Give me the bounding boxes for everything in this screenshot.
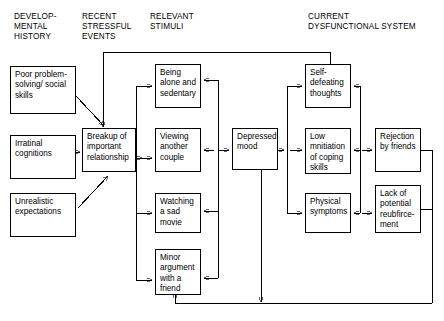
column-heading-relevant-stimuli: RELEVANT STIMULI: [150, 12, 230, 32]
edge-top-feedback-bus: [103, 52, 330, 122]
edge-poor-problem-solving-to-breakup: [76, 96, 104, 126]
column-heading-developmental-history: DEVELOP- MENTAL HISTORY: [14, 12, 80, 43]
node-low-initiation-of-coping-skills: Low mnitiation of coping skills: [305, 128, 351, 174]
node-physical-symptoms: Physical symptoms: [305, 193, 351, 233]
node-watching-a-sad-movie: Watching a sad movie: [155, 193, 201, 233]
node-depressed-mood: Depressed mood: [232, 128, 278, 170]
node-self-defeating-thoughts: Self- defeating thoughts: [305, 64, 351, 108]
node-breakup-of-important-relationship: Breakup of important relationship: [82, 128, 136, 172]
edge-rejection-to-bottom: [421, 150, 432, 303]
edge-unrealistic-expectations-to-breakup: [78, 176, 108, 208]
functional-analysis-diagram: DEVELOP- MENTAL HISTORY RECENT STRESSFUL…: [0, 0, 444, 321]
column-heading-recent-stressful-events: RECENT STRESSFUL EVENTS: [82, 12, 148, 43]
node-unrealistic-expectations: Unrealistic expectations: [10, 193, 76, 237]
node-viewing-another-couple: Viewing another couple: [155, 128, 201, 172]
node-irrational-cognitions: Irratinal cognitions: [10, 135, 76, 179]
node-rejection-by-friends: Rejection by friends: [375, 128, 421, 172]
column-heading-current-dysfunctional-system: CURRENT DYSFUNCTIONAL SYSTEM: [308, 12, 438, 32]
node-poor-problem-solving: Poor problem- solving/ social skills: [10, 66, 76, 114]
node-minor-argument-with-a-friend: Minor argument with a friend: [155, 249, 201, 295]
node-lack-of-potential-reinforcement: Lack of potential reubfirce- ment: [375, 185, 421, 233]
node-being-alone-and-sedentary: Being alone and sedentary: [155, 64, 201, 108]
